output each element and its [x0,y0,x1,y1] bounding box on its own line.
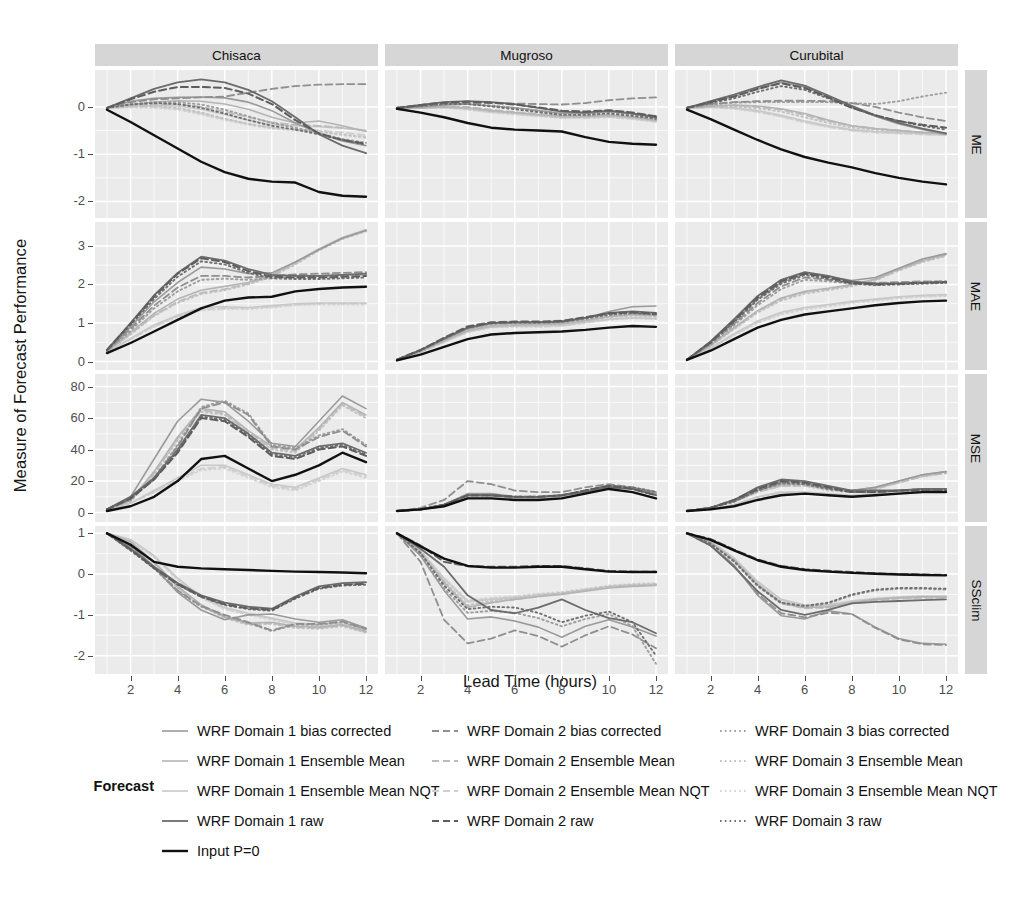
series-line-d2_bias [397,533,656,648]
y-tick-label: -2 [39,649,85,663]
series-line-d2_raw [397,533,656,571]
panel-me-mugroso [385,70,668,218]
legend-item-label: WRF Domain 2 raw [467,813,594,829]
panel-me-curubital [675,70,958,218]
legend-item[interactable]: WRF Domain 1 raw [160,806,440,836]
facet-strip-col-curubital: Curubital [675,44,958,66]
y-tick-mark [88,284,93,285]
series-line-d3_bias [687,280,946,360]
legend-item[interactable]: WRF Domain 1 Ensemble Mean [160,746,440,776]
facet-strip-row-mse: MSE [965,374,987,522]
x-tick-mark [852,676,853,681]
y-tick-label: 0 [39,567,85,581]
gridlines [95,222,378,370]
x-tick-mark [946,676,947,681]
x-tick-mark [515,676,516,681]
series-line-d1_bias [107,533,366,628]
x-tick-label: 8 [840,682,864,697]
y-tick-mark [88,513,93,514]
legend-item-label: WRF Domain 3 Ensemble Mean NQT [755,783,998,799]
legend-item[interactable]: WRF Domain 1 bias corrected [160,716,440,746]
panel-mse-curubital [675,374,958,522]
legend-column-1: WRF Domain 1 bias correctedWRF Domain 1 … [160,716,440,866]
y-tick-label: -1 [39,147,85,161]
legend-item[interactable]: WRF Domain 3 bias corrected [718,716,998,746]
facet-strip-row-me: ME [965,70,987,218]
panel-mae-chisaca [95,222,378,370]
legend-item[interactable]: WRF Domain 3 Ensemble Mean NQT [718,776,998,806]
series-line-d1_bias [107,396,366,509]
x-axis-title-text: Lead Time (hours) [463,672,597,690]
y-tick-mark [88,362,93,363]
panel-mae-mugroso [385,222,668,370]
legend-key-line-icon [430,753,460,769]
x-tick-mark [711,676,712,681]
legend-item-label: WRF Domain 3 bias corrected [755,723,949,739]
legend-item-label: WRF Domain 2 Ensemble Mean NQT [467,783,710,799]
legend-item[interactable]: WRF Domain 2 bias corrected [430,716,710,746]
legend-item[interactable]: Input P=0 [160,836,440,866]
series-line-d3_ens [107,231,366,351]
legend-column-2: WRF Domain 2 bias correctedWRF Domain 2 … [430,716,710,836]
series-line-d3_ens [107,106,366,137]
series-line-input0 [397,533,656,572]
y-tick-label: 2 [39,277,85,291]
y-tick-mark [88,246,93,247]
facet-strip-row-label: SSclim [969,579,984,621]
legend-item[interactable]: WRF Domain 1 Ensemble Mean NQT [160,776,440,806]
y-tick-label: 40 [39,443,85,457]
x-tick-label: 6 [793,682,817,697]
series-line-d1_bias [107,230,366,350]
panel-me-chisaca [95,70,378,218]
legend-key-line-icon [430,723,460,739]
y-tick-label: 80 [39,380,85,394]
x-tick-label: 12 [934,682,958,697]
x-tick-label: 2 [119,682,143,697]
y-tick-label: 0 [39,355,85,369]
facet-strip-row-ssclim: SSclim [965,526,987,674]
panel-mae-curubital [675,222,958,370]
legend-item-label: Input P=0 [197,843,259,859]
x-tick-label: 6 [503,682,527,697]
legend-item-label: WRF Domain 2 bias corrected [467,723,661,739]
y-tick-mark [88,323,93,324]
panel-mse-mugroso [385,374,668,522]
legend-item[interactable]: WRF Domain 2 Ensemble Mean NQT [430,776,710,806]
legend-item[interactable]: WRF Domain 3 raw [718,806,998,836]
x-tick-mark [468,676,469,681]
legend-column-3: WRF Domain 3 bias correctedWRF Domain 3 … [718,716,998,836]
legend-title: Forecast [68,778,154,794]
x-tick-label: 12 [644,682,668,697]
y-tick-mark [88,533,93,534]
legend-item-label: WRF Domain 2 Ensemble Mean [467,753,675,769]
x-tick-mark [421,676,422,681]
series-line-d1_ens [107,230,366,352]
x-tick-mark [225,676,226,681]
legend-item-label: WRF Domain 3 Ensemble Mean [755,753,963,769]
legend-item-label: WRF Domain 1 Ensemble Mean [197,753,405,769]
x-tick-mark [272,676,273,681]
series-line-d2_raw [107,87,366,144]
legend-key-line-icon [160,723,190,739]
y-tick-label: 1 [39,316,85,330]
x-tick-label: 10 [307,682,331,697]
legend-item[interactable]: WRF Domain 3 Ensemble Mean [718,746,998,776]
y-tick-mark [88,107,93,108]
legend-key-line-icon [160,783,190,799]
series-line-input0 [107,533,366,573]
y-tick-mark [88,387,93,388]
legend-item-label: WRF Domain 3 raw [755,813,882,829]
y-tick-mark [88,481,93,482]
legend-item[interactable]: WRF Domain 2 raw [430,806,710,836]
x-tick-label: 10 [597,682,621,697]
y-tick-mark [88,450,93,451]
legend-item[interactable]: WRF Domain 2 Ensemble Mean [430,746,710,776]
y-tick-label: 0 [39,100,85,114]
y-tick-label: -2 [39,194,85,208]
y-axis-title-text: Measure of Forecast Performance [12,238,31,491]
x-tick-mark [609,676,610,681]
x-tick-mark [805,676,806,681]
facet-strip-row-label: MSE [969,433,984,462]
y-tick-label: 3 [39,239,85,253]
gridlines [385,526,668,674]
